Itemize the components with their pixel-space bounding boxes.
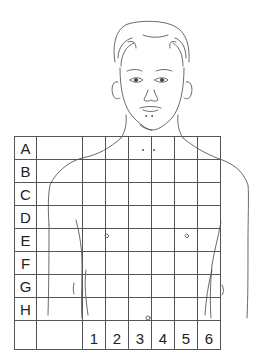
grid-row-c: C — [15, 183, 221, 206]
row-label: G — [15, 275, 37, 298]
neck-left — [121, 115, 126, 138]
column-label: 2 — [106, 321, 129, 350]
row-label: F — [15, 252, 37, 275]
left-ear — [112, 82, 120, 99]
grid-row-d: D — [15, 206, 221, 229]
grid-row-a: A — [15, 137, 221, 160]
column-label: 5 — [175, 321, 198, 350]
right-ear — [184, 82, 192, 99]
nose — [144, 90, 158, 101]
column-label: 1 — [83, 321, 106, 350]
grid-row-e: E — [15, 229, 221, 252]
column-label: 4 — [152, 321, 175, 350]
row-label: D — [15, 206, 37, 229]
left-eyebrow — [127, 70, 142, 72]
column-label: 3 — [129, 321, 152, 350]
left-pupil — [134, 78, 137, 81]
right-arm-outer — [247, 240, 248, 318]
row-label: E — [15, 229, 37, 252]
row-label: H — [15, 298, 37, 321]
hair-right-strands — [170, 38, 186, 66]
hair-top-line — [143, 35, 168, 37]
row-label: B — [15, 160, 37, 183]
mouth — [140, 107, 161, 112]
column-label: 6 — [198, 321, 221, 350]
grid-column-labels: 1 2 3 4 5 6 — [15, 321, 221, 350]
reference-grid: A B C D E F — [14, 136, 217, 344]
hair-left-strands — [118, 38, 136, 66]
row-label: A — [15, 137, 37, 160]
grid-row-h: H — [15, 298, 221, 321]
grid-row-f: F — [15, 252, 221, 275]
face-outline — [120, 68, 184, 130]
neck-right — [178, 115, 183, 138]
grid-row-b: B — [15, 160, 221, 183]
row-label: C — [15, 183, 37, 206]
right-waist-mark — [222, 285, 224, 295]
right-eyebrow — [156, 70, 172, 72]
right-pupil — [160, 78, 163, 81]
grid-row-g: G — [15, 275, 221, 298]
chin-dot — [146, 116, 147, 117]
chin-dot — [152, 116, 153, 117]
